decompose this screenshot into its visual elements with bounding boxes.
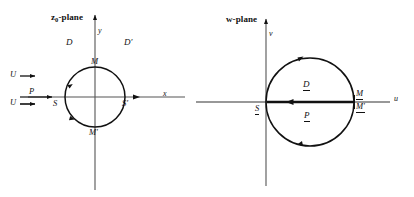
left-x-axis-arrowhead [133, 95, 140, 100]
diagram-svg [0, 0, 414, 197]
left-region-label-D: D [66, 38, 73, 47]
left-axis-label-y: y [98, 27, 102, 35]
right-region-label-D: D [303, 80, 310, 89]
left-point-label-M: M [91, 57, 98, 66]
left-region-label-D-prime: D′ [124, 38, 132, 47]
z0-plane-label: z0-plane [51, 13, 83, 23]
slit-flow-arrow [286, 99, 294, 105]
left-point-label-S-prime: S′ [122, 99, 128, 108]
left-panel-group [20, 15, 185, 190]
flow-label-P: P [29, 87, 34, 96]
w-plane-label: w-plane [226, 15, 257, 24]
left-axis-label-x: x [163, 90, 167, 98]
right-axis-label-v: v [269, 30, 273, 38]
right-region-label-P: P [304, 111, 310, 120]
flow-label-U-upper: U [10, 70, 16, 79]
left-point-label-S: S [53, 99, 57, 108]
right-point-label-M-prime: M′ [356, 102, 365, 111]
left-point-label-M-prime: M′ [89, 128, 98, 137]
right-point-label-M: M [356, 89, 363, 98]
flow-label-U-lower: U [10, 98, 16, 107]
right-point-label-S: S [255, 104, 259, 113]
right-axis-label-u: u [394, 95, 398, 103]
figure-canvas: z0-plane y x D D′ S S′ M M′ U P U w-plan… [0, 0, 414, 197]
